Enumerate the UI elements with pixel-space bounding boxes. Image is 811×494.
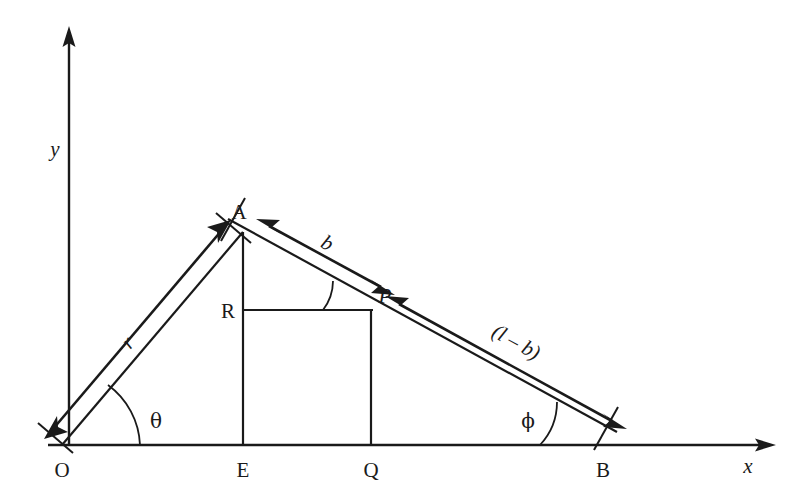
point-label-P: P	[378, 284, 392, 308]
segment-AB	[228, 219, 617, 432]
point-label-B: B	[596, 458, 610, 482]
dimension-lb-arrowhead-B-icon	[602, 413, 627, 429]
angle-arc-at-P	[323, 281, 333, 310]
angle-label-theta: θ	[150, 409, 162, 433]
dimension-r-shaft	[53, 230, 222, 429]
point-label-Q: Q	[363, 458, 378, 482]
angle-labels-group: θ ϕ	[150, 409, 535, 433]
angle-arc-phi	[540, 402, 557, 445]
dimension-r-arrowhead-O-icon	[44, 416, 68, 439]
point-label-E: E	[237, 458, 250, 482]
geometry-diagram: r b (l – b)	[0, 0, 811, 494]
point-label-O: O	[54, 458, 69, 482]
y-axis-label: y	[48, 137, 60, 161]
dimension-b-group: b	[256, 219, 395, 295]
dimension-l-minus-b-group: (l – b)	[221, 198, 627, 450]
point-label-R: R	[221, 299, 235, 323]
dimension-label-b: b	[317, 230, 338, 256]
point-label-A: A	[231, 200, 247, 224]
dimension-b-arrowhead-A-icon	[256, 219, 281, 234]
angle-label-phi: ϕ	[521, 409, 535, 433]
figure-container: r b (l – b)	[0, 0, 811, 494]
angle-arc-theta	[108, 385, 140, 445]
axes-group	[48, 26, 776, 452]
x-axis-label: x	[742, 454, 753, 478]
